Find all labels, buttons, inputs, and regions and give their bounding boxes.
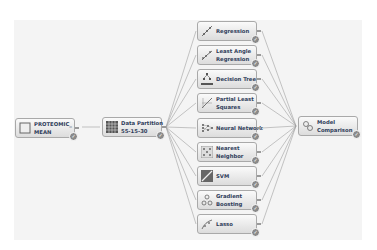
node-lasso[interactable]: Lasso ✓	[197, 214, 257, 234]
node-model-comparison[interactable]: ModelComparison ✓	[298, 116, 358, 136]
checkmark-icon: ✓	[251, 156, 260, 165]
node-neural-network[interactable]: Neural Network ✓	[197, 118, 257, 138]
svm-icon	[201, 170, 213, 182]
node-nearest-neighbor[interactable]: NearestNeighbor ✓	[197, 142, 257, 162]
decision-tree-icon	[201, 73, 213, 85]
node-svm[interactable]: SVM ✓	[197, 166, 257, 186]
node-data-partition[interactable]: Data Partition55-15-30 ✓	[102, 117, 162, 137]
node-label: NearestNeighbor	[216, 144, 254, 160]
checkmark-icon: ✓	[69, 132, 78, 141]
node-label: Neural Network	[216, 124, 254, 132]
checkmark-icon: ✓	[251, 228, 260, 237]
output-port[interactable]	[257, 223, 261, 225]
label-line-1: Nearest	[216, 145, 240, 151]
output-port[interactable]	[257, 54, 261, 56]
label-line-1: Model	[317, 119, 335, 125]
node-label: Decision Tree	[216, 75, 254, 83]
output-port[interactable]	[257, 175, 261, 177]
node-label: Least AngleRegression	[216, 47, 254, 63]
node-proteomic-mean[interactable]: PROTEOMIC_MEAN ✓	[15, 118, 75, 138]
node-label: Lasso	[216, 220, 254, 228]
label-line-2: Regression	[216, 56, 249, 62]
node-decision-tree[interactable]: Decision Tree ✓	[197, 69, 257, 89]
partial-least-squares-icon	[201, 97, 213, 109]
label-line-2: Boosting	[216, 201, 242, 207]
partition-grid-icon	[106, 121, 118, 133]
label-line-2: MEAN	[34, 129, 51, 135]
checkmark-icon: ✓	[251, 180, 260, 189]
model-comparison-icon	[302, 120, 314, 132]
checkmark-icon: ✓	[251, 35, 260, 44]
gradient-boosting-icon	[201, 194, 213, 206]
output-port[interactable]	[75, 127, 79, 129]
output-port[interactable]	[257, 30, 261, 32]
checkmark-icon: ✓	[251, 132, 260, 141]
node-label: Partial LeastSquares	[216, 95, 254, 111]
node-label: ModelComparison	[317, 118, 355, 134]
label-line-1: Partial Least	[216, 96, 254, 102]
node-label: Data Partition55-15-30	[121, 119, 159, 135]
node-least-angle-regression[interactable]: Least AngleRegression ✓	[197, 45, 257, 65]
neural-network-icon	[201, 122, 213, 134]
node-label: PROTEOMIC_MEAN	[34, 120, 72, 136]
checkmark-icon: ✓	[251, 59, 260, 68]
nearest-neighbor-icon	[201, 146, 213, 158]
data-source-icon	[19, 122, 31, 134]
label-line-2: Squares	[216, 104, 240, 110]
node-gradient-boosting[interactable]: GradientBoosting ✓	[197, 190, 257, 210]
node-label: GradientBoosting	[216, 192, 254, 208]
node-label: Regression	[216, 27, 254, 35]
output-port[interactable]	[257, 127, 261, 129]
node-label: SVM	[216, 172, 254, 180]
least-angle-regression-icon	[201, 49, 213, 61]
checkmark-icon: ✓	[352, 130, 361, 139]
node-partial-least-squares[interactable]: Partial LeastSquares ✓	[197, 93, 257, 113]
label-line-1: Gradient	[216, 193, 242, 199]
lasso-icon	[201, 218, 213, 230]
checkmark-icon: ✓	[251, 83, 260, 92]
label-line-2: Comparison	[317, 127, 352, 133]
regression-icon	[201, 25, 213, 37]
checkmark-icon: ✓	[156, 131, 165, 140]
label-line-1: Least Angle	[216, 48, 251, 54]
output-port[interactable]	[257, 199, 261, 201]
output-port[interactable]	[257, 151, 261, 153]
label-line-2: Neighbor	[216, 153, 243, 159]
checkmark-icon: ✓	[251, 107, 260, 116]
checkmark-icon: ✓	[251, 204, 260, 213]
label-line-2: 55-15-30	[121, 128, 148, 134]
node-regression[interactable]: Regression ✓	[197, 21, 257, 41]
output-port[interactable]	[257, 78, 261, 80]
label-line-1: Data Partition	[121, 120, 163, 126]
output-port[interactable]	[257, 102, 261, 104]
label-line-1: PROTEOMIC_	[34, 121, 72, 127]
output-port[interactable]	[162, 126, 166, 128]
